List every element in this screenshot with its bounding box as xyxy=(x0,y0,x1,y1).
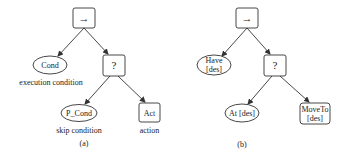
edge-b-root-have xyxy=(222,28,247,56)
b-moveto-label: MoveTo [des] xyxy=(302,105,329,123)
a-sequence-symbol: → xyxy=(79,14,90,23)
edge-b-fallback-moveto xyxy=(280,76,309,102)
a-fallback-symbol: ? xyxy=(112,61,117,70)
b-at-label: At [des] xyxy=(229,109,255,118)
a-pcond-label: P_Cond xyxy=(66,109,92,118)
b-moveto-line1: MoveTo xyxy=(302,105,329,114)
a-cond-annotation: execution condition xyxy=(19,79,82,87)
b-have-label: Have [des] xyxy=(206,56,223,74)
edge-b-fallback-at xyxy=(248,76,272,104)
edge-a-root-fallback xyxy=(84,28,108,54)
b-fallback-symbol: ? xyxy=(273,61,278,70)
a-pcond-annotation: skip condition xyxy=(56,127,102,135)
edge-a-fallback-pcond xyxy=(85,76,110,104)
edge-a-fallback-act xyxy=(118,76,145,102)
b-have-line1: Have xyxy=(206,56,223,65)
b-moveto-line2: [des] xyxy=(302,114,329,123)
b-caption: (b) xyxy=(237,141,246,149)
a-act-annotation: action xyxy=(140,127,160,135)
a-caption: (a) xyxy=(80,140,89,148)
a-cond-label: Cond xyxy=(41,61,58,70)
edge-a-root-cond xyxy=(58,28,84,56)
b-sequence-symbol: → xyxy=(242,14,253,23)
a-act-label: Act xyxy=(144,108,156,117)
edge-b-root-fallback xyxy=(247,28,270,54)
b-have-line2: [des] xyxy=(206,65,223,74)
